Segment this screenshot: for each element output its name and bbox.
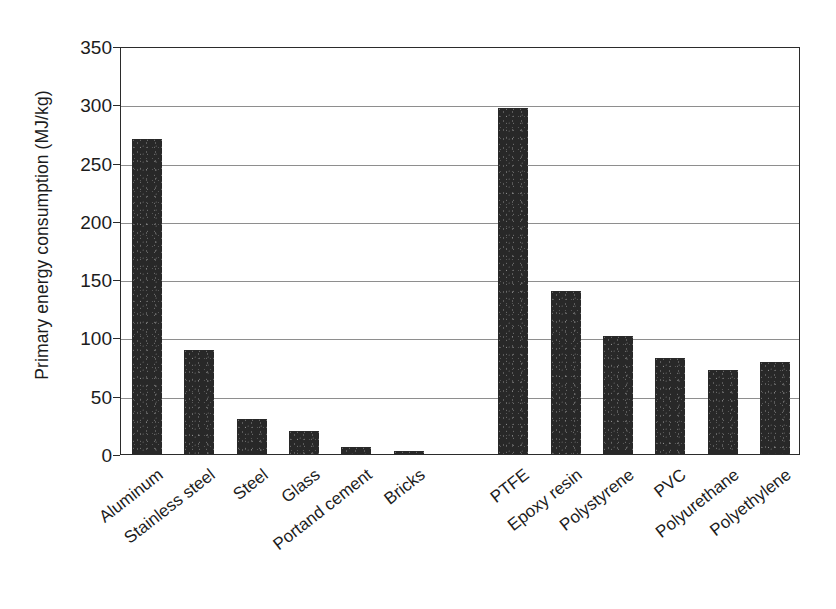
x-axis-tick-label-text: PVC bbox=[651, 465, 691, 502]
y-axis-tick-label: 0 bbox=[40, 446, 112, 465]
y-axis-tick-label: 150 bbox=[40, 271, 112, 290]
gridline bbox=[121, 281, 799, 282]
y-axis-tick-mark bbox=[113, 222, 120, 223]
bar bbox=[708, 370, 738, 454]
gridline bbox=[121, 165, 799, 166]
y-axis-tick-mark bbox=[113, 455, 120, 456]
gridline bbox=[121, 106, 799, 107]
y-axis-tick-label: 250 bbox=[40, 155, 112, 174]
y-axis-tick-label: 50 bbox=[40, 388, 112, 407]
x-axis-tick-labels: AluminumStainless steelSteelGlassPortand… bbox=[120, 455, 836, 609]
y-axis-tick-label: 350 bbox=[40, 38, 112, 57]
y-axis-tick-mark bbox=[113, 47, 120, 48]
bar bbox=[551, 291, 581, 454]
bar bbox=[498, 108, 528, 454]
gridline bbox=[121, 223, 799, 224]
gridline bbox=[121, 339, 799, 340]
x-axis-tick-label-text: Steel bbox=[229, 465, 272, 505]
y-axis-tick-label: 200 bbox=[40, 213, 112, 232]
y-axis-tick-mark bbox=[113, 280, 120, 281]
y-axis-tick-mark bbox=[113, 164, 120, 165]
y-axis-tick-mark bbox=[113, 105, 120, 106]
y-axis-tick-label: 100 bbox=[40, 329, 112, 348]
y-axis-tick-label: 300 bbox=[40, 96, 112, 115]
y-axis-tick-mark bbox=[113, 397, 120, 398]
bar-chart-figure: Primary energy consumption (MJ/kg) 05010… bbox=[0, 0, 836, 609]
bar bbox=[132, 139, 162, 454]
y-axis-tick-mark bbox=[113, 338, 120, 339]
